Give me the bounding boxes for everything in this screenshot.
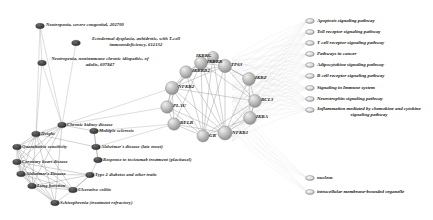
disease-node[interactable] xyxy=(51,200,60,205)
disease-node[interactable] xyxy=(94,157,103,162)
gene-node[interactable] xyxy=(244,112,257,125)
disease-node[interactable] xyxy=(58,122,67,127)
pathway-node[interactable] xyxy=(306,97,314,102)
gene-node[interactable] xyxy=(168,118,180,130)
pathway-term-label: Adipocytokine signaling pathway xyxy=(317,62,384,68)
disease-node[interactable] xyxy=(13,144,22,149)
gene-node[interactable] xyxy=(180,66,192,78)
pathway-node[interactable] xyxy=(306,30,314,35)
disease-node-label: Ectodermal dysplasia, anhidrotic, with T… xyxy=(82,36,190,47)
disease-node[interactable] xyxy=(13,159,22,164)
gene-node[interactable] xyxy=(218,126,232,140)
pathway-node[interactable] xyxy=(306,63,314,68)
pathway-term-label: B cell receptor signaling pathway xyxy=(317,73,384,79)
pathway-node[interactable] xyxy=(306,52,314,57)
gene-node[interactable] xyxy=(197,130,209,142)
disease-node-label: Multiple sclerosis xyxy=(99,128,134,134)
disease-node[interactable] xyxy=(86,172,95,177)
gene-node[interactable] xyxy=(249,95,262,108)
disease-node-label: Lung function xyxy=(37,183,65,189)
pathway-node[interactable] xyxy=(306,74,314,79)
gene-node-label: IKBKG xyxy=(196,53,212,58)
component-node[interactable] xyxy=(306,190,314,195)
pathway-node[interactable] xyxy=(306,19,314,24)
disease-node-label: Neutropenia, severe congenital, 202700 xyxy=(46,22,124,28)
pathway-term-label: Signaling in Immune system xyxy=(317,85,375,91)
component-term-label: intracellular membrane-bounded organelle xyxy=(317,189,404,195)
network-figure: Neutropenia, severe congenital, 202700Ec… xyxy=(0,0,433,220)
disease-node-label: Alzheimer's disease (late onset) xyxy=(101,144,163,150)
pathway-term-label: Inflammation mediated by chemokine and c… xyxy=(317,106,421,119)
gene-node-label: TP63 xyxy=(231,62,242,67)
disease-node[interactable] xyxy=(92,144,101,149)
disease-node[interactable] xyxy=(32,131,41,136)
gene-node-label: GR xyxy=(209,133,216,138)
gene-node-label: NFKB1 xyxy=(232,130,248,135)
disease-node-label: Type 2 diabetes and other traits xyxy=(95,172,157,178)
pathway-term-label: T cell receptor signaling pathway xyxy=(317,40,384,46)
gene-node-label: PLAU xyxy=(173,103,186,108)
pathway-node[interactable] xyxy=(306,108,314,113)
gene-node[interactable] xyxy=(165,81,178,94)
component-node[interactable] xyxy=(306,176,314,181)
disease-node-label: Ulcerative colitis xyxy=(78,187,111,193)
pathway-node[interactable] xyxy=(306,41,314,46)
component-term-label: nucleus xyxy=(317,175,333,181)
pathway-term-label: Neurotrophin signaling pathway xyxy=(317,96,383,102)
disease-node-label: Schizophrenia (treatment refractory) xyxy=(60,200,133,206)
gene-node-label: IKBZ xyxy=(255,75,267,80)
gene-node-label: BCL3 xyxy=(261,97,273,102)
disease-node-label: Height xyxy=(41,131,55,137)
disease-node-label: Quantitative sensitivity xyxy=(22,144,67,150)
pathway-term-label: Toll receptor signaling pathway xyxy=(317,29,381,35)
gene-node-label: IKBKB xyxy=(207,59,222,64)
gene-node[interactable] xyxy=(161,101,173,113)
gene-node-label: RELB xyxy=(180,120,193,125)
pathway-term-label: Pathways in cancer xyxy=(317,51,356,57)
disease-node[interactable] xyxy=(69,187,78,192)
gene-node-label: NFKB2 xyxy=(178,84,194,89)
gene-node-label: IKBKB2 xyxy=(192,68,210,73)
disease-node[interactable] xyxy=(17,171,26,176)
disease-node-label: Alzheimer's Disease xyxy=(26,171,66,177)
disease-node[interactable] xyxy=(72,40,81,45)
pathway-node[interactable] xyxy=(306,86,314,91)
disease-node-label: Coronary heart disease xyxy=(22,159,68,165)
disease-node[interactable] xyxy=(36,23,45,28)
pathway-term-label: Apoptosis signaling pathway xyxy=(317,18,375,24)
gene-node[interactable] xyxy=(243,73,256,86)
disease-node[interactable] xyxy=(90,128,99,133)
pathway-fan-edges xyxy=(232,21,307,192)
disease-node-label: Chronic kidney disease xyxy=(67,122,113,128)
disease-node[interactable] xyxy=(28,183,37,188)
gene-node-label: IKBA xyxy=(256,114,268,119)
disease-node-label: Neutropenia, noninmmune chronic idiopath… xyxy=(48,56,152,67)
disease-node[interactable] xyxy=(38,60,47,65)
disease-node-label: Response to tocizumab treatment (placita… xyxy=(103,157,192,163)
